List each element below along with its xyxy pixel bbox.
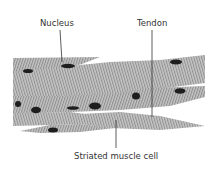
muscle-diagram: [0, 0, 221, 170]
nucleus-label: Nucleus: [40, 18, 74, 28]
nucleus: [132, 93, 140, 100]
nucleus-leader-line: [60, 30, 62, 62]
tendon-label: Tendon: [137, 18, 167, 28]
nucleus: [15, 101, 21, 107]
striated-muscle-cell-label: Striated muscle cell: [74, 151, 158, 161]
nucleus: [175, 88, 186, 94]
nucleus: [23, 69, 33, 73]
nucleus: [48, 128, 58, 133]
nucleus: [31, 107, 41, 113]
nucleus: [170, 60, 182, 65]
nucleus: [67, 106, 79, 110]
nucleus: [61, 64, 75, 68]
nucleus: [89, 103, 101, 110]
